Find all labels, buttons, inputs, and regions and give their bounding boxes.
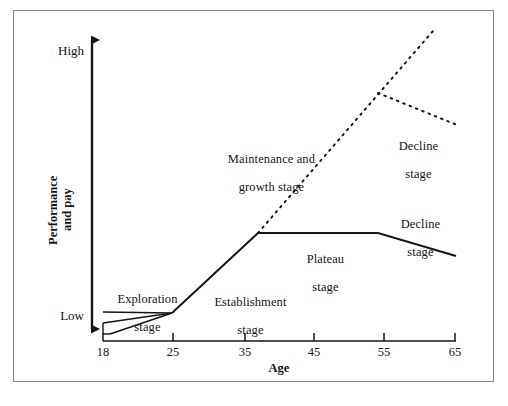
y-axis-title-line1: Performance [46,175,60,244]
annotation-plateau-line2: stage [312,280,338,294]
y-axis-high-label: High [32,43,84,59]
annotation-establishment-stage: Establishment stage [201,281,286,351]
annotation-maintenance-line1: Maintenance and [228,152,315,166]
y-axis-title: Performance and pay [46,150,75,270]
annotation-decline-dotted-line1: Decline [399,139,439,153]
annotation-establishment-line1: Establishment [214,295,286,309]
annotation-decline-stage-dotted: Decline stage [386,125,438,195]
figure-root: High Low Performance and pay 18 25 35 45… [0,0,508,406]
annotation-exploration-line1: Exploration [117,292,177,306]
x-tick-55: 55 [378,345,391,360]
annotation-maintenance-growth-stage: Maintenance and growth stage [215,138,315,208]
annotation-maintenance-line2: growth stage [239,180,304,194]
annotation-decline-stage-solid: Decline stage [388,203,440,273]
dotted-decline-path [378,93,457,125]
y-axis-low-label: Low [32,308,84,324]
y-axis-title-line2: and pay [60,150,74,270]
annotation-plateau-stage: Plateau stage [294,238,344,308]
annotation-plateau-line1: Plateau [307,252,345,266]
annotation-exploration-stage: Exploration stage [104,278,177,348]
annotation-exploration-line2: stage [134,320,160,334]
annotation-decline-solid-line2: stage [407,245,433,259]
annotation-establishment-line2: stage [237,323,263,337]
x-tick-45: 45 [308,345,321,360]
x-tick-65: 65 [449,345,462,360]
x-axis-title: Age [269,361,290,376]
annotation-decline-dotted-line2: stage [405,167,431,181]
annotation-decline-solid-line1: Decline [401,217,441,231]
